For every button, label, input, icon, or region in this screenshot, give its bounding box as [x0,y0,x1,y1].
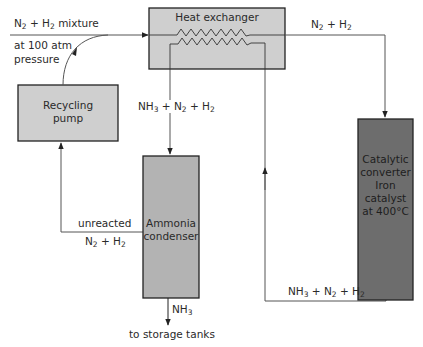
heat-exchanger-label: Heat exchanger [149,11,285,24]
from-converter-label: NH3 + N2 + H2 [288,285,365,298]
feed-pressure-label: at 100 atm [14,39,72,52]
to-condenser-label: NH3 + N2 + H2 [137,100,216,113]
feed-pressure-label-2: pressure [14,53,59,66]
to-converter-line [285,35,385,117]
unreacted-formula-label: N2 + H2 [85,235,126,248]
ammonia-condenser-label: Ammonia condenser [143,217,199,243]
product-label: NH3 [172,303,193,316]
recycling-pump-label: Recycling pump [18,99,118,125]
storage-label: to storage tanks [129,328,215,341]
feed-label: N2 + H2 mixture [14,17,99,30]
catalytic-converter-label: Catalytic converter Iron catalyst at 400… [358,153,413,218]
unreacted-label: unreacted [78,217,131,230]
to-converter-label: N2 + H2 [311,18,352,31]
